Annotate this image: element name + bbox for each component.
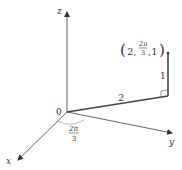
svg-text:2,: 2, [127,46,137,57]
x-axis [18,112,67,160]
svg-text:,1: ,1 [148,46,158,57]
svg-text:2π: 2π [138,40,148,48]
point-coordinate-label: ( 2, 2π 3 ,1 ) [120,40,165,59]
cylindrical-coordinates-diagram: z y x 0 2 1 ( 2, 2π 3 ,1 ) 2π 3 [0,0,182,170]
angle-arc [58,120,84,124]
svg-text:3: 3 [72,135,76,143]
svg-text:3: 3 [141,49,145,57]
z-axis-label: z [56,6,62,16]
height-label: 1 [160,71,166,81]
y-axis-label: y [168,137,175,147]
svg-text:2π: 2π [68,125,78,133]
svg-text:(: ( [120,41,126,59]
origin-label: 0 [56,107,62,117]
x-axis-label: x [6,156,11,166]
svg-text:): ) [159,41,165,59]
y-axis [67,112,172,133]
angle-label: 2π 3 [68,125,79,143]
radius-label: 2 [118,92,124,103]
point-marker [167,52,170,55]
